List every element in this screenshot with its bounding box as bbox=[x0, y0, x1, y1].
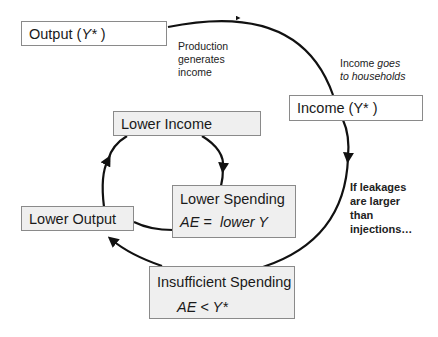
node-lower-spending: Lower Spending AE = lower Y bbox=[172, 185, 296, 238]
outer-arrow-insufficient-to-lower-output bbox=[112, 240, 162, 266]
annotation-production: Production generates income bbox=[178, 40, 228, 79]
annotation-leakages: If leakages are larger than injections… bbox=[350, 180, 412, 236]
insufficient-spending-equation: AE < Y* bbox=[157, 300, 294, 315]
node-output: Output (Y* ) bbox=[21, 21, 167, 46]
inner-arrow-lower-output-up bbox=[103, 160, 108, 207]
annotation-income-goes: Income goes to households bbox=[340, 57, 405, 83]
node-lower-output: Lower Output bbox=[21, 206, 134, 231]
node-lower-income: Lower Income bbox=[113, 111, 261, 136]
lower-spending-equation: AE = lower Y bbox=[180, 215, 295, 230]
inner-arrow-lower-income-to-spending bbox=[202, 136, 223, 168]
outer-arrow-income-down bbox=[343, 120, 348, 158]
inner-arrow-spending-to-lower-output bbox=[134, 222, 173, 230]
node-income: Income (Y* ) bbox=[289, 95, 423, 121]
node-insufficient-spending: Insufficient Spending AE < Y* bbox=[149, 266, 295, 319]
inner-arrow-left-to-lower-income bbox=[108, 136, 127, 160]
